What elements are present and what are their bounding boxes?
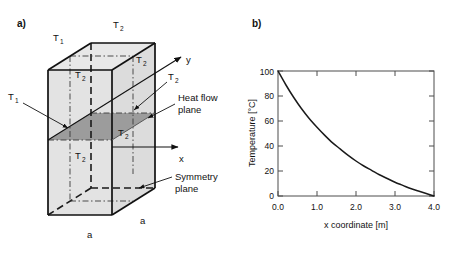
t2-hp-letter: T — [118, 127, 124, 138]
y-tick-60: 60 — [265, 116, 275, 126]
x-tick-labels: 0.0 1.0 2.0 3.0 4.0 — [272, 202, 440, 212]
plot-frame — [278, 71, 434, 196]
x-tick-0: 0.0 — [272, 202, 284, 212]
dimension-a-front: a — [87, 229, 93, 240]
symmetry-label-line2: plane — [175, 183, 198, 194]
t2-ann-letter: T — [168, 71, 174, 82]
t2-ru-subscript: 2 — [143, 60, 147, 67]
prism-diagram: y x T 1 T 2 T 2 T 2 T 2 — [0, 0, 240, 253]
label-t1-top: T 1 — [53, 32, 64, 45]
t2-ru-letter: T — [136, 54, 142, 65]
t2-fl-letter: T — [75, 150, 81, 161]
x-tick-2: 2.0 — [350, 202, 362, 212]
prism-front-face — [48, 70, 112, 215]
label-t2-top: T 2 — [113, 19, 124, 32]
x-axis-label: x — [179, 153, 184, 164]
t2-ann-subscript: 2 — [175, 77, 179, 84]
y-axis-label: y — [186, 54, 191, 65]
heat-flow-label-line2: plane — [178, 104, 201, 115]
y-tick-100: 100 — [260, 67, 274, 77]
y-tick-0: 0 — [269, 191, 274, 201]
heat-flow-plane-callout: Heat flow plane — [148, 92, 218, 118]
x-axis-title: x coordinate [m] — [324, 220, 388, 230]
heat-flow-label-line1: Heat flow — [178, 92, 218, 103]
y-tick-80: 80 — [265, 91, 275, 101]
t2-fu-letter: T — [75, 69, 81, 80]
temperature-chart: 0 20 40 60 80 100 0.0 1.0 2.0 3.0 4.0 x … — [240, 0, 454, 253]
t2-hp-subscript: 2 — [125, 133, 129, 140]
symmetry-label-line1: Symmetry — [175, 171, 218, 182]
x-tick-4: 4.0 — [428, 202, 440, 212]
t2-fu-subscript: 2 — [82, 75, 86, 82]
x-tick-3: 3.0 — [389, 202, 401, 212]
t2-fl-subscript: 2 — [82, 156, 86, 163]
y-tick-labels: 0 20 40 60 80 100 — [260, 67, 274, 201]
t1-ann-subscript: 1 — [15, 97, 19, 104]
y-tick-20: 20 — [265, 166, 275, 176]
dimension-a-side: a — [140, 215, 146, 226]
figure-container: a) b) — [0, 0, 454, 253]
t2-top-subscript: 2 — [120, 25, 124, 32]
t1-ann-letter: T — [8, 91, 14, 102]
x-tick-1: 1.0 — [311, 202, 323, 212]
y-tick-40: 40 — [265, 141, 275, 151]
t1-top-subscript: 1 — [60, 38, 64, 45]
t1-top-letter: T — [53, 32, 59, 43]
y-axis-title: Temperature [°C] — [247, 99, 257, 167]
t2-top-letter: T — [113, 19, 119, 30]
